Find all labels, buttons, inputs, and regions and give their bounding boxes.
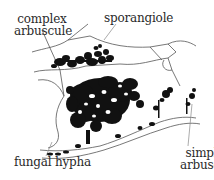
label-complex-line2: arbuscule — [14, 25, 70, 37]
label-complex-arbuscule: complex arbuscule — [14, 13, 70, 37]
sporangiole-leader — [104, 24, 116, 40]
simple-arbuscule-leader — [188, 104, 192, 146]
simple-arbuscules — [153, 87, 196, 118]
mycorrhiza-diagram: complex arbuscule sporangiole fungal hyp… — [0, 0, 214, 180]
label-sporangiole: sporangiole — [104, 12, 173, 24]
complex-arbuscule-main — [66, 76, 144, 132]
complex-arbuscule-upper — [51, 44, 114, 68]
label-simple-line2: arbuscule — [180, 159, 214, 171]
label-fungal-hypha: fungal hypha — [14, 156, 91, 168]
label-simple-arbuscule: simple arbuscule — [180, 147, 214, 171]
